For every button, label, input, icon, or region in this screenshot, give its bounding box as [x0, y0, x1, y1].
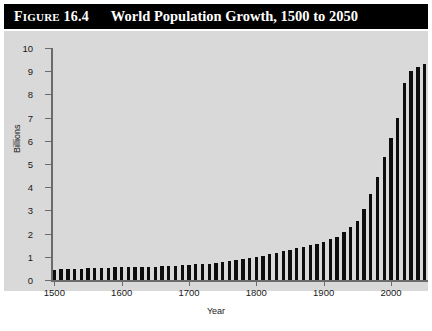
chart-bar — [423, 64, 426, 280]
chart-bar — [335, 237, 338, 280]
x-axis-tick-label: 1600 — [111, 287, 132, 298]
chart-bar — [154, 267, 157, 280]
y-axis-title: Billions — [12, 124, 22, 153]
x-axis-title: Year — [4, 306, 428, 316]
chart-bar — [174, 266, 177, 280]
x-axis-tick — [189, 281, 190, 286]
chart-bar — [362, 209, 365, 280]
y-axis-tick-label: 7 — [0, 114, 33, 124]
x-axis-tick-label: 1700 — [178, 287, 199, 298]
y-axis-tick-label: 10 — [0, 44, 33, 54]
y-axis-tick-label: 3 — [0, 206, 33, 216]
y-axis-tick-label: 5 — [0, 160, 33, 170]
chart-bar — [53, 270, 56, 280]
figure-number-prefix: FIGURE — [14, 9, 60, 24]
y-axis-tick-label: 0 — [0, 276, 33, 286]
chart-bar — [356, 221, 359, 280]
x-axis-tick — [391, 281, 392, 286]
chart-bar — [322, 242, 325, 280]
chart-bar — [268, 254, 271, 280]
figure-number: FIGURE 16.4 — [14, 9, 89, 25]
x-axis-line — [51, 280, 428, 282]
chart-bar — [59, 269, 62, 280]
chart-bar — [167, 266, 170, 280]
y-axis-tick-label: 4 — [0, 183, 33, 193]
x-axis-tick — [54, 281, 55, 286]
chart-bar — [214, 263, 217, 280]
chart-bar — [369, 194, 372, 280]
plot-area — [51, 48, 428, 280]
chart-bar — [208, 264, 211, 280]
chart-bar — [107, 268, 110, 280]
chart-bar — [329, 239, 332, 280]
chart-bar — [396, 118, 399, 280]
chart-bar — [73, 269, 76, 280]
chart-bar — [127, 267, 130, 280]
y-axis-tick-label: 9 — [0, 67, 33, 77]
y-axis-tick-label: 2 — [0, 230, 33, 240]
chart-bar — [113, 267, 116, 280]
chart-bar — [228, 261, 231, 280]
chart-bar — [234, 260, 237, 280]
chart-bar — [147, 267, 150, 280]
chart-bar — [302, 247, 305, 280]
chart-bar — [194, 264, 197, 280]
chart-bar — [100, 268, 103, 280]
figure-container: FIGURE 16.4 World Population Growth, 150… — [0, 0, 432, 331]
chart-bar — [288, 250, 291, 280]
x-axis-tick-label: 1800 — [246, 287, 267, 298]
chart-bar — [282, 251, 285, 280]
chart-bar — [409, 71, 412, 280]
chart-bar — [93, 268, 96, 280]
chart-bar — [275, 253, 278, 280]
chart-bar — [389, 138, 392, 280]
chart-bar — [140, 267, 143, 280]
chart-bar — [181, 265, 184, 280]
chart-panel: 012345678910 150016001700180019002000 Bi… — [4, 31, 428, 291]
figure-title-text: World Population Growth, 1500 to 2050 — [111, 8, 358, 25]
chart-bar — [80, 269, 83, 280]
x-axis-tick — [122, 281, 123, 286]
chart-bar — [133, 267, 136, 280]
figure-title-bar: FIGURE 16.4 World Population Growth, 150… — [4, 4, 428, 29]
chart-bar — [349, 227, 352, 280]
y-axis-tick-label: 1 — [0, 253, 33, 263]
chart-bar — [261, 256, 264, 280]
chart-bar — [248, 258, 251, 280]
chart-bar — [255, 257, 258, 280]
y-axis-tick — [45, 280, 51, 281]
x-axis-tick-label: 1500 — [44, 287, 65, 298]
chart-bar — [315, 244, 318, 280]
chart-bar — [309, 245, 312, 280]
chart-bar — [201, 264, 204, 280]
x-axis-tick-label: 2000 — [380, 287, 401, 298]
chart-bar — [241, 259, 244, 280]
x-axis-tick-label: 1900 — [313, 287, 334, 298]
y-axis-tick-label: 8 — [0, 90, 33, 100]
figure-number-value: 16.4 — [64, 9, 89, 24]
chart-bar — [86, 268, 89, 280]
chart-bar — [383, 157, 386, 280]
x-axis-tick — [256, 281, 257, 286]
chart-bar — [66, 269, 69, 280]
chart-bar — [120, 267, 123, 280]
chart-bar — [160, 266, 163, 280]
chart-bar — [342, 232, 345, 280]
chart-bar — [221, 262, 224, 280]
x-axis-tick — [324, 281, 325, 286]
chart-bar — [416, 67, 419, 280]
chart-bar — [187, 265, 190, 280]
chart-bar — [295, 248, 298, 280]
chart-bar — [376, 177, 379, 280]
chart-bar — [403, 83, 406, 280]
